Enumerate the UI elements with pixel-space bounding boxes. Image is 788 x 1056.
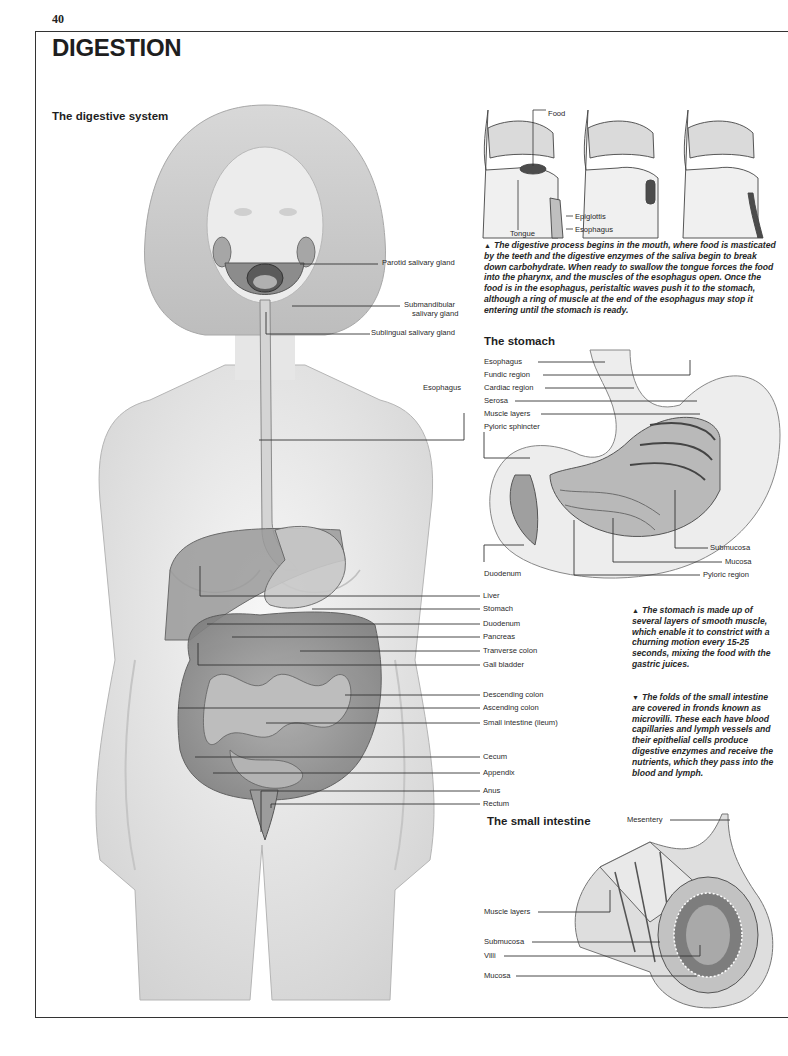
label-intestine-mucosa: Mucosa <box>484 972 511 981</box>
small-intestine-leader-lines <box>0 0 788 1056</box>
label-intestine-muscle-layers: Muscle layers <box>484 908 530 917</box>
label-villi: Villi <box>484 952 496 961</box>
label-mesentery: Mesentery <box>627 816 662 825</box>
label-intestine-submucosa: Submucosa <box>484 938 524 947</box>
